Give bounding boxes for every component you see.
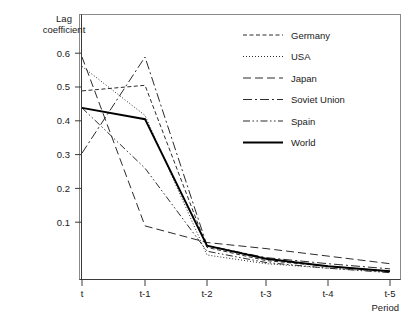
plot-frame [80, 15, 401, 280]
x-tick-label-3: t-2 [201, 288, 212, 299]
x-tick-label-5: t-4 [322, 288, 333, 299]
y-axis-ticks [75, 53, 82, 222]
y-tick-label-2: 0.2 [57, 183, 70, 194]
lag-coefficient-chart: 0.6 0.5 0.4 0.3 0.2 0.1 Lag coefficient … [0, 0, 414, 321]
chart-legend: GermanyUSAJapanSoviet UnionSpainWorld [243, 30, 345, 149]
legend-label-soviet-union: Soviet Union [291, 94, 345, 105]
y-tick-label-4: 0.4 [57, 115, 70, 126]
y-tick-label-5: 0.5 [57, 81, 70, 92]
y-axis-title-line1: Lag [56, 13, 72, 24]
y-tick-label-3: 0.3 [57, 149, 70, 160]
legend-label-germany: Germany [291, 30, 330, 41]
x-tick-label-4: t-3 [260, 288, 271, 299]
y-tick-label-6: 0.6 [57, 48, 70, 59]
series-line-japan [82, 57, 390, 264]
x-tick-label-6: t-5 [384, 288, 395, 299]
y-tick-label-1: 0.1 [57, 217, 70, 228]
series-line-spain [82, 108, 390, 273]
x-tick-label-1: t [81, 288, 84, 299]
x-axis-ticks [82, 280, 390, 287]
legend-label-japan: Japan [291, 73, 317, 84]
series-line-soviet-union [82, 57, 390, 269]
series-line-germany [82, 85, 390, 271]
series-layer [82, 57, 390, 273]
x-tick-label-2: t-1 [139, 288, 150, 299]
x-axis-title: Period [372, 302, 399, 313]
legend-label-world: World [291, 137, 316, 148]
legend-label-usa: USA [291, 51, 311, 62]
y-axis-title-line2: coefficient [43, 24, 86, 35]
series-line-world [82, 108, 390, 271]
legend-label-spain: Spain [291, 116, 315, 127]
chart-svg: 0.6 0.5 0.4 0.3 0.2 0.1 Lag coefficient … [0, 0, 414, 321]
